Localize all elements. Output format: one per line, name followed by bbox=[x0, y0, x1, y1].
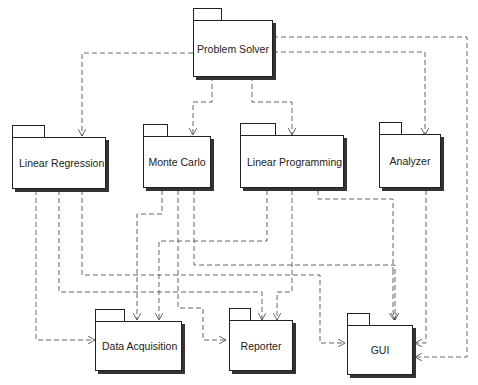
package-body: GUI bbox=[347, 325, 413, 375]
dep-ps-mc bbox=[193, 76, 212, 135]
dep-mc-gui bbox=[194, 190, 395, 320]
dep-ps-an bbox=[273, 52, 425, 135]
package-body: Data Acquisition bbox=[95, 321, 182, 371]
dep-ps-gui bbox=[273, 37, 467, 357]
package-label: GUI bbox=[348, 344, 412, 356]
dep-mc-da bbox=[137, 190, 162, 320]
package-body: Problem Solver bbox=[193, 20, 273, 77]
dep-lr-da bbox=[36, 190, 95, 340]
package-body: Linear Regression bbox=[12, 137, 106, 189]
dep-an-gui bbox=[415, 190, 426, 343]
package-label: Reporter bbox=[230, 340, 292, 352]
dep-lp-rep bbox=[277, 190, 292, 320]
package-label: Data Acquisition bbox=[96, 340, 181, 352]
package-label: Linear Programming bbox=[241, 156, 343, 168]
dep-lp-gui bbox=[318, 190, 394, 320]
package-label: Linear Regression bbox=[13, 157, 105, 169]
package-label: Problem Solver bbox=[194, 43, 272, 55]
dep-lr-rep bbox=[59, 190, 262, 320]
package-label: Analyzer bbox=[380, 155, 440, 167]
package-body: Reporter bbox=[229, 320, 293, 371]
package-body: Monte Carlo bbox=[143, 136, 211, 188]
package-body: Analyzer bbox=[379, 134, 441, 188]
dep-lp-da bbox=[159, 190, 267, 320]
package-label: Monte Carlo bbox=[144, 156, 210, 168]
package-body: Linear Programming bbox=[240, 135, 344, 188]
dep-ps-lr bbox=[82, 53, 193, 136]
